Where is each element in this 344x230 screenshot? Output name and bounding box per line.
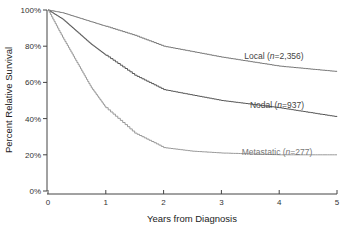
series-label-nodal: Nodal (n=937)	[250, 100, 304, 110]
x-tick-label: 3	[219, 198, 224, 207]
y-tick-label: 40%	[25, 115, 41, 124]
y-axis-title: Percent Relative Survival	[3, 47, 14, 153]
series-label-local: Local (n=2,356)	[244, 51, 303, 61]
x-tick-label: 0	[46, 198, 51, 207]
x-tick-label: 2	[161, 198, 166, 207]
x-tick-label: 5	[335, 198, 340, 207]
series-line-local	[48, 10, 337, 72]
series-line-metastatic	[48, 10, 337, 155]
y-tick-label: 80%	[25, 42, 41, 51]
x-axis: 012345	[46, 190, 340, 207]
survival-chart: 0%20%40%60%80%100% 012345 Local (n=2,356…	[0, 0, 344, 230]
x-tick-label: 1	[104, 198, 109, 207]
x-tick-label: 4	[277, 198, 282, 207]
series-label-metastatic: Metastatic (n=277)	[242, 147, 313, 157]
y-tick-label: 20%	[25, 151, 41, 160]
y-axis: 0%20%40%60%80%100%	[21, 6, 47, 196]
series-layer	[48, 10, 337, 155]
y-tick-label: 60%	[25, 78, 41, 87]
x-axis-title: Years from Diagnosis	[147, 213, 237, 224]
y-tick-label: 100%	[21, 6, 41, 15]
series-labels: Local (n=2,356)Nodal (n=937)Metastatic (…	[242, 51, 313, 157]
y-tick-label: 0%	[29, 187, 41, 196]
